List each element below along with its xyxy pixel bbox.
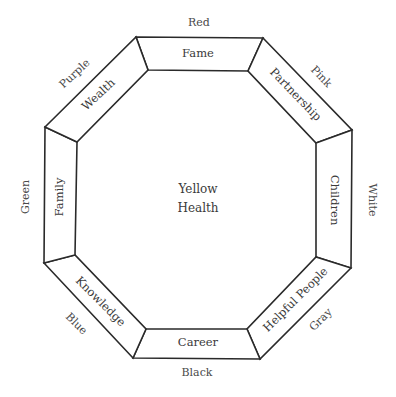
center-region: Yellow Health xyxy=(177,182,218,215)
area-label-career: Career xyxy=(178,335,219,349)
color-label-helpful-people: Gray xyxy=(307,305,336,334)
color-label-knowledge: Blue xyxy=(63,310,90,337)
area-label-children: Children xyxy=(328,175,342,226)
color-label-family: Green xyxy=(19,180,32,214)
center-color-label: Yellow xyxy=(177,182,218,196)
segment-knowledge xyxy=(44,255,146,358)
bagua-diagram: FameRedPartnershipPinkChildrenWhiteHelpf… xyxy=(0,0,396,397)
segment-helpful-people xyxy=(247,257,351,359)
color-label-fame: Red xyxy=(188,16,210,29)
color-label-children: White xyxy=(366,184,379,217)
center-area-label: Health xyxy=(177,201,218,215)
area-label-fame: Fame xyxy=(182,46,214,60)
area-label-family: Family xyxy=(52,177,66,216)
color-label-partnership: Pink xyxy=(308,63,335,90)
color-label-career: Black xyxy=(182,366,213,379)
octagon-ring xyxy=(44,37,352,359)
